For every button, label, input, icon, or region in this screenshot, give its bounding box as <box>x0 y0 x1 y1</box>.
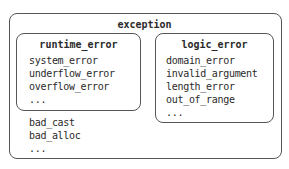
exception-label: exception <box>0 19 289 31</box>
exception-item: bad_cast <box>29 117 75 129</box>
logic-item: domain_error <box>166 55 235 67</box>
runtime-item: underflow_error <box>29 68 115 80</box>
logic-item: out_of_range <box>166 94 235 106</box>
exception-item: bad_alloc <box>29 130 81 142</box>
logic-item: invalid_argument <box>166 68 258 80</box>
runtime-item: overflow_error <box>29 81 109 93</box>
runtime-item: system_error <box>29 55 98 67</box>
exception-item: ... <box>29 143 46 155</box>
logic-item: ... <box>166 107 183 119</box>
runtime-item: ... <box>29 94 46 106</box>
runtime-error-label: runtime_error <box>16 39 141 51</box>
logic-item: length_error <box>166 81 235 93</box>
logic-error-label: logic_error <box>155 39 274 51</box>
